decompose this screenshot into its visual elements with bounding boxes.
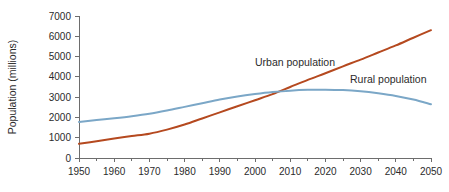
x-tick-label: 2050: [420, 166, 443, 177]
chart-series-lines: [79, 30, 431, 144]
x-tick-label: 1950: [68, 166, 91, 177]
y-tick-label: 4000: [49, 71, 72, 82]
y-tick-label: 2000: [49, 112, 72, 123]
line-chart: 01000200030004000500060007000 1950196019…: [0, 0, 449, 192]
x-tick-label: 2030: [349, 166, 372, 177]
x-tick-label: 1990: [209, 166, 232, 177]
y-tick-label: 0: [65, 153, 71, 164]
series-label-urban-population: Urban population: [255, 56, 335, 68]
series-line-urban-population: [79, 30, 431, 144]
y-axis-title: Population (millions): [6, 40, 18, 135]
series-line-rural-population: [79, 90, 431, 122]
x-tick-label: 1980: [173, 166, 196, 177]
series-label-rural-population: Rural population: [350, 73, 427, 85]
chart-series-annotations: Urban populationRural population: [255, 56, 427, 86]
x-axis-tick-labels: 1950196019701980199020002010202020302040…: [68, 166, 443, 177]
y-tick-label: 6000: [49, 31, 72, 42]
y-tick-label: 7000: [49, 11, 72, 22]
y-tick-label: 3000: [49, 92, 72, 103]
y-axis-tick-labels: 01000200030004000500060007000: [49, 11, 72, 164]
chart-tick-marks: [75, 16, 431, 162]
x-tick-label: 2020: [314, 166, 337, 177]
x-tick-label: 2000: [244, 166, 267, 177]
x-tick-label: 1970: [138, 166, 161, 177]
x-tick-label: 2010: [279, 166, 302, 177]
chart-container: 01000200030004000500060007000 1950196019…: [0, 0, 449, 192]
y-tick-label: 1000: [49, 132, 72, 143]
x-tick-label: 2040: [385, 166, 408, 177]
x-tick-label: 1960: [103, 166, 126, 177]
y-tick-label: 5000: [49, 51, 72, 62]
y-axis-title-text: Population (millions): [6, 40, 18, 135]
